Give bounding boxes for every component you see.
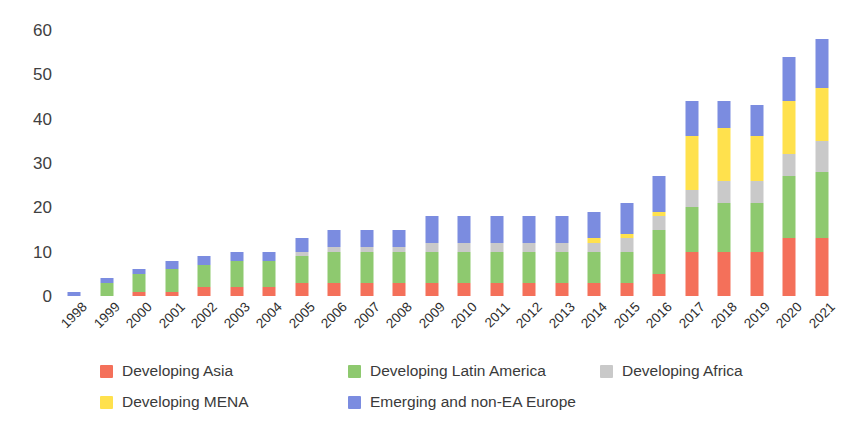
bar-segment	[620, 252, 633, 283]
x-axis-tick-2010: 2010	[445, 300, 480, 335]
bar-segment	[523, 283, 536, 296]
legend-item-developing-mena[interactable]: Developing MENA	[100, 394, 249, 410]
bar-segment	[198, 256, 211, 265]
bar-segment	[393, 230, 406, 248]
bar-stack	[198, 256, 211, 296]
x-axis-tick-2006: 2006	[315, 300, 350, 335]
bar-segment	[360, 230, 373, 248]
bar-segment	[100, 283, 113, 296]
bar-segment	[198, 265, 211, 287]
x-axis-tick-2000: 2000	[120, 300, 155, 335]
bar-2016	[643, 30, 676, 296]
bar-segment	[458, 283, 471, 296]
bar-segment	[263, 261, 276, 288]
bar-stack	[588, 212, 601, 296]
y-axis: 0102030405060	[0, 20, 52, 310]
bar-segment	[490, 252, 503, 283]
legend-label: Emerging and non-EA Europe	[370, 394, 576, 410]
bar-2018	[708, 30, 741, 296]
bar-segment	[718, 203, 731, 252]
bar-segment	[783, 238, 796, 296]
bar-segment	[685, 190, 698, 208]
bar-segment	[815, 39, 828, 88]
x-axis-tick-2020: 2020	[770, 300, 805, 335]
bar-stack	[68, 292, 81, 296]
bar-segment	[750, 136, 763, 180]
bar-segment	[588, 243, 601, 252]
bar-segment	[490, 216, 503, 243]
bar-stack	[783, 57, 796, 296]
bar-segment	[718, 252, 731, 296]
bar-segment	[425, 243, 438, 252]
legend-item-developing-latin-america[interactable]: Developing Latin America	[348, 363, 546, 379]
bar-segment	[458, 243, 471, 252]
bar-stack	[360, 230, 373, 296]
bar-segment	[718, 101, 731, 128]
legend-swatch-icon	[348, 396, 361, 409]
legend-swatch-icon	[348, 365, 361, 378]
x-axis-tick-2015: 2015	[607, 300, 642, 335]
bar-segment	[295, 283, 308, 296]
bar-stack	[100, 278, 113, 296]
bar-segment	[555, 243, 568, 252]
bar-stack	[425, 216, 438, 296]
bar-segment	[653, 274, 666, 296]
bar-segment	[165, 269, 178, 291]
bar-2009	[416, 30, 449, 296]
bar-segment	[653, 216, 666, 229]
bar-segment	[165, 292, 178, 296]
y-axis-tick-60: 60	[6, 22, 52, 39]
legend-label: Developing MENA	[122, 394, 249, 410]
bar-segment	[718, 181, 731, 203]
bar-2002	[188, 30, 221, 296]
legend-swatch-icon	[100, 365, 113, 378]
x-axis-tick-2013: 2013	[542, 300, 577, 335]
legend-swatch-icon	[600, 365, 613, 378]
bar-segment	[555, 252, 568, 283]
legend-item-emerging-and-non-ea-europe[interactable]: Emerging and non-EA Europe	[348, 394, 576, 410]
bar-segment	[230, 261, 243, 288]
bar-2014	[578, 30, 611, 296]
bar-2004	[253, 30, 286, 296]
bar-segment	[620, 238, 633, 251]
bar-segment	[458, 216, 471, 243]
bar-segment	[68, 292, 81, 296]
bar-segment	[653, 176, 666, 211]
bar-stack	[295, 238, 308, 296]
legend-label: Developing Asia	[122, 363, 233, 379]
plot-area	[58, 30, 838, 296]
bar-segment	[458, 252, 471, 283]
bar-2000	[123, 30, 156, 296]
bar-stack	[523, 216, 536, 296]
bar-segment	[653, 230, 666, 274]
bar-segment	[588, 252, 601, 283]
bar-2008	[383, 30, 416, 296]
bar-2012	[513, 30, 546, 296]
bar-2020	[773, 30, 806, 296]
bar-segment	[198, 287, 211, 296]
x-axis-tick-2007: 2007	[347, 300, 382, 335]
bar-stack	[750, 105, 763, 296]
bar-segment	[620, 203, 633, 234]
bar-2003	[221, 30, 254, 296]
legend-swatch-icon	[100, 396, 113, 409]
x-axis-tick-2001: 2001	[152, 300, 187, 335]
bar-segment	[360, 283, 373, 296]
bar-segment	[783, 57, 796, 101]
bar-2019	[741, 30, 774, 296]
bar-stack	[685, 101, 698, 296]
legend-item-developing-africa[interactable]: Developing Africa	[600, 363, 743, 379]
x-axis-tick-2004: 2004	[250, 300, 285, 335]
legend-item-developing-asia[interactable]: Developing Asia	[100, 363, 233, 379]
bar-stack	[328, 230, 341, 296]
x-axis: 1998199920002001200220032004200520062007…	[58, 298, 838, 354]
bar-segment	[555, 283, 568, 296]
bar-segment	[620, 283, 633, 296]
x-axis-tick-2012: 2012	[510, 300, 545, 335]
bar-segment	[783, 154, 796, 176]
x-axis-tick-2003: 2003	[217, 300, 252, 335]
bar-segment	[328, 283, 341, 296]
bar-segment	[588, 283, 601, 296]
bar-segment	[555, 216, 568, 243]
bar-segment	[815, 238, 828, 296]
